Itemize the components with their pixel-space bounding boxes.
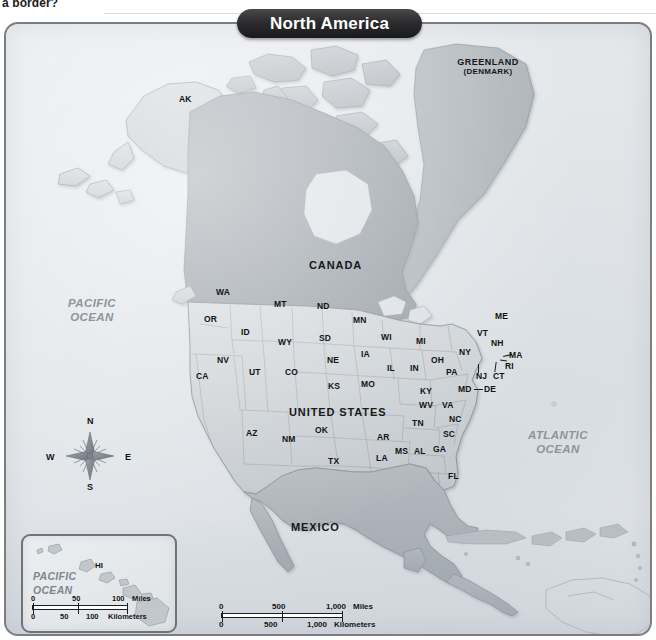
state-label-co: CO (285, 368, 298, 377)
state-label-ga: GA (433, 445, 446, 454)
atlantic-small-island (552, 402, 557, 407)
inset-miles-tick-0: 0 (31, 594, 35, 603)
state-label-wv: WV (419, 401, 433, 410)
atlantic-line2: OCEAN (536, 443, 580, 455)
state-label-wy: WY (278, 338, 292, 347)
greenland-landmass (392, 44, 534, 300)
region-label-greenland: GREENLAND (DENMARK) (446, 58, 530, 76)
inset-scale-bar: 0 50 100 Miles 0 50 100 Kilometers (32, 594, 158, 623)
south-america-outline (546, 578, 652, 636)
scale-km-numbers: 0 500 1,000 Kilometers (221, 620, 361, 631)
greenland-name: GREENLAND (457, 57, 519, 67)
inset-km-tick-0: 0 (31, 612, 35, 621)
state-label-ri: RI (505, 362, 514, 371)
state-label-sc: SC (443, 430, 455, 439)
compass-rose: N E S W (44, 416, 136, 492)
state-label-ak: AK (179, 95, 192, 104)
inset-km-unit: Kilometers (108, 612, 147, 621)
state-label-mt: MT (274, 300, 287, 309)
compass-label-south: S (87, 482, 93, 492)
canada-landmass (172, 92, 432, 324)
km-tick-500: 500 (264, 620, 277, 629)
state-label-va: VA (442, 401, 454, 410)
state-label-nm: NM (282, 435, 296, 444)
miles-tick-500: 500 (272, 602, 285, 611)
state-label-me: ME (495, 312, 508, 321)
state-label-pa: PA (446, 368, 458, 377)
state-label-nh: NH (491, 339, 504, 348)
miles-unit: Miles (353, 602, 373, 611)
state-label-mn: MN (353, 316, 367, 325)
state-label-la: LA (376, 454, 388, 463)
state-label-az: AZ (246, 429, 258, 438)
state-label-ok: OK (315, 426, 328, 435)
state-label-ne: NE (327, 356, 339, 365)
compass-rose-graphic (44, 416, 136, 492)
state-label-in: IN (410, 364, 419, 373)
state-label-ks: KS (328, 382, 340, 391)
state-label-id: ID (241, 328, 250, 337)
map-title-text: North America (270, 15, 389, 32)
state-label-wi: WI (381, 333, 392, 342)
hawaii-inset-map: HI PACIFIC OCEAN 0 50 100 Miles (21, 534, 177, 633)
state-label-ny: NY (459, 348, 471, 357)
state-label-ia: IA (361, 350, 370, 359)
state-label-ct: CT (493, 372, 505, 381)
leader-line-de (474, 389, 483, 390)
pacific-line1: PACIFIC (68, 297, 116, 309)
state-label-ms: MS (395, 447, 408, 456)
ocean-label-pacific: PACIFIC OCEAN (49, 296, 135, 325)
km-tick-1000: 1,000 (307, 620, 327, 629)
state-label-vt: VT (477, 329, 488, 338)
compass-label-east: E (125, 452, 131, 462)
state-label-nd: ND (317, 302, 330, 311)
state-label-md: MD (458, 385, 472, 394)
inset-scale-miles-numbers: 0 50 100 Miles (32, 594, 158, 605)
state-label-mo: MO (361, 380, 375, 389)
state-label-de: DE (484, 385, 496, 394)
scale-miles-numbers: 0 500 1,000 Miles (221, 602, 361, 613)
inset-state-label-hi: HI (95, 561, 103, 570)
state-label-tn: TN (412, 419, 424, 428)
miles-tick-1000: 1,000 (326, 602, 346, 611)
country-label-canada: CANADA (309, 260, 362, 271)
km-tick-0: 0 (219, 620, 223, 629)
inset-km-tick-100: 100 (86, 612, 99, 621)
inset-pacific-line1: PACIFIC (33, 570, 76, 582)
state-label-ut: UT (249, 368, 261, 377)
compass-label-north: N (87, 416, 94, 426)
map-title-banner: North America (237, 9, 422, 38)
inset-miles-tick-50: 50 (72, 594, 80, 603)
state-label-sd: SD (319, 334, 331, 343)
inset-km-tick-50: 50 (60, 612, 68, 621)
map-scale-bar: 0 500 1,000 Miles 0 500 1,000 Kilometers (221, 602, 361, 631)
inset-scale-bar-graphic (32, 605, 128, 610)
state-label-tx: TX (328, 457, 339, 466)
scale-bar-graphic (221, 613, 343, 618)
map-figure: CANADA UNITED STATES MEXICO GREENLAND (D… (4, 22, 652, 636)
state-label-oh: OH (431, 356, 444, 365)
state-label-wa: WA (216, 288, 230, 297)
pacific-line2: OCEAN (70, 311, 114, 323)
country-label-mexico: MEXICO (291, 522, 340, 533)
state-label-ar: AR (377, 433, 390, 442)
state-label-mi: MI (416, 337, 426, 346)
inset-miles-tick-100: 100 (112, 594, 125, 603)
greenland-sovereign: (DENMARK) (446, 68, 530, 76)
miles-tick-0: 0 (219, 602, 223, 611)
state-label-nc: NC (449, 415, 462, 424)
state-label-fl: FL (448, 472, 459, 481)
state-label-ky: KY (420, 387, 432, 396)
state-label-nv: NV (217, 356, 229, 365)
inset-scale-km-numbers: 0 50 100 Kilometers (32, 612, 158, 623)
compass-label-west: W (46, 452, 55, 462)
state-label-ma: MA (509, 351, 523, 360)
country-label-united-states: UNITED STATES (289, 407, 386, 418)
atlantic-line1: ATLANTIC (528, 429, 588, 441)
state-label-al: AL (414, 447, 426, 456)
state-label-or: OR (204, 315, 217, 324)
state-label-nj: NJ (476, 372, 487, 381)
inset-miles-unit: Miles (132, 594, 151, 603)
ocean-label-atlantic: ATLANTIC OCEAN (510, 428, 606, 457)
km-unit: Kilometers (334, 620, 375, 629)
